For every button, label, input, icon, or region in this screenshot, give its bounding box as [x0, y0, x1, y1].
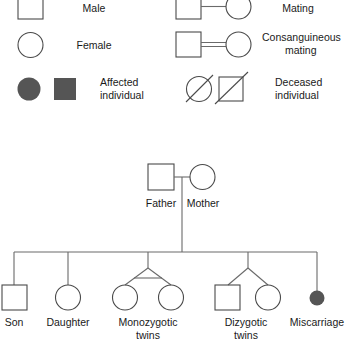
mother-circle-icon	[190, 165, 215, 190]
daughter-circle-icon	[56, 285, 81, 310]
legend-row-affected: Affected individual	[18, 76, 144, 101]
generation-1: Father Mother	[146, 164, 220, 252]
child-daughter: Daughter	[46, 252, 90, 328]
circle-filled-icon	[18, 78, 41, 101]
label-monozygotic-line1: Monozygotic	[119, 316, 178, 328]
legend-label-female: Female	[76, 39, 111, 51]
label-mother: Mother	[187, 197, 220, 209]
label-monozygotic-line2: twins	[136, 329, 160, 341]
child-dizygotic-twins: Dizygotic twins	[215, 252, 281, 341]
legend-row-consanguineous: Consanguineous mating	[176, 31, 341, 57]
pedigree-chart: Male Female Affected individual Mating	[0, 0, 354, 343]
child-monozygotic-twins: Monozygotic twins	[113, 252, 184, 341]
square-unfilled-icon	[18, 0, 43, 19]
monozygotic-twin-1-circle-icon	[113, 285, 138, 310]
legend-row-mating: Mating	[176, 0, 314, 19]
monozygotic-left-branch	[125, 268, 148, 285]
son-square-icon	[2, 285, 27, 310]
mating-circle-icon	[226, 0, 251, 19]
legend-label-male: Male	[83, 2, 106, 14]
label-daughter: Daughter	[46, 316, 90, 328]
square-filled-icon	[54, 78, 76, 100]
legend-label-deceased-line1: Deceased	[275, 76, 322, 88]
dizygotic-right-branch	[248, 268, 268, 285]
legend-label-deceased-line2: individual	[275, 89, 319, 101]
dizygotic-twin-2-circle-icon	[256, 285, 281, 310]
dizygotic-left-branch	[228, 268, 248, 285]
legend-row-male: Male	[18, 0, 106, 19]
deceased-circle-slash-icon	[186, 75, 213, 102]
pedigree-diagram: Male Female Affected individual Mating	[0, 0, 354, 343]
legend-label-consanguineous-line1: Consanguineous	[262, 31, 341, 43]
father-square-icon	[148, 164, 174, 190]
dizygotic-twin-1-square-icon	[215, 285, 240, 310]
circle-unfilled-icon	[18, 33, 43, 58]
monozygotic-right-branch	[148, 268, 171, 285]
child-son: Son	[2, 252, 27, 328]
monozygotic-twin-2-circle-icon	[159, 285, 184, 310]
legend-row-deceased: Deceased individual	[186, 72, 322, 104]
mating-square-icon	[176, 0, 201, 19]
legend-label-affected-line2: individual	[100, 89, 144, 101]
label-dizygotic-line2: twins	[234, 329, 258, 341]
child-miscarriage: Miscarriage	[290, 252, 344, 328]
legend-label-mating: Mating	[282, 2, 314, 14]
legend-label-consanguineous-line2: mating	[285, 44, 317, 56]
label-father: Father	[146, 197, 177, 209]
label-dizygotic-line1: Dizygotic	[225, 316, 268, 328]
legend-label-affected-line1: Affected	[100, 76, 138, 88]
label-son: Son	[5, 316, 24, 328]
label-miscarriage: Miscarriage	[290, 316, 344, 328]
miscarriage-small-circle-filled-icon	[310, 291, 325, 306]
consanguineous-square-icon	[176, 32, 201, 57]
legend-row-female: Female	[18, 33, 112, 58]
consanguineous-circle-icon	[226, 32, 251, 57]
